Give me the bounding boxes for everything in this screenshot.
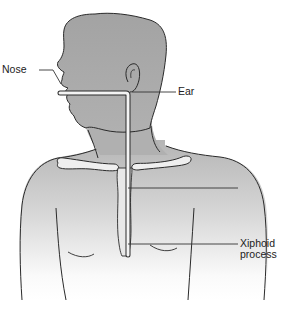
xiphoid-label-line2: process (240, 249, 277, 260)
head (57, 13, 166, 132)
nose-label: Nose (2, 64, 27, 75)
nose-leader-line (39, 70, 61, 84)
ear-label: Ear (178, 86, 194, 97)
anatomy-diagram (0, 0, 281, 322)
